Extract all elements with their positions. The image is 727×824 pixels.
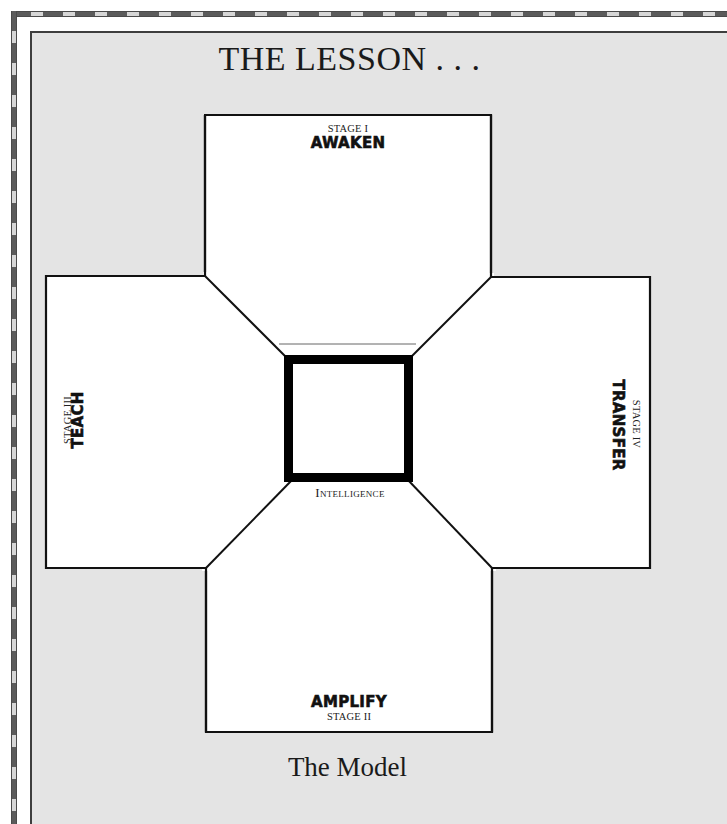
stage-transfer-name: TRANSFER bbox=[609, 379, 627, 470]
diagram-caption: The Model bbox=[0, 752, 727, 783]
intelligence-square bbox=[289, 360, 409, 478]
stage-iv-label: STAGE IV bbox=[631, 400, 642, 448]
stage-teach-name: TEACH bbox=[69, 391, 87, 448]
intelligence-label: Intelligence bbox=[300, 485, 400, 501]
stage-awaken-name: AWAKEN bbox=[311, 134, 386, 152]
stage-i-label: STAGE I bbox=[328, 123, 369, 134]
stage-ii-label: STAGE II bbox=[327, 711, 371, 722]
diagram-caption-text: The Model bbox=[288, 752, 407, 783]
stage-amplify-name: AMPLIFY bbox=[311, 693, 387, 711]
